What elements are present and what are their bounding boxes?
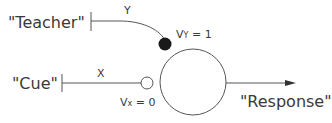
x-label: X: [97, 67, 105, 80]
arrowhead-icon: [285, 80, 296, 86]
vy-label: VY = 1: [176, 28, 212, 41]
teacher-label: "Teacher": [8, 13, 85, 32]
cue-label: "Cue": [12, 74, 58, 93]
response-label: "Response": [240, 92, 332, 111]
teacher-synapse-filled: [159, 38, 172, 51]
y-label: Y: [123, 4, 131, 17]
conditioning-diagram: "Teacher" Y VY = 1 "Cue" X Vx = 0 "Respo…: [0, 0, 332, 123]
cue-synapse-hollow: [141, 77, 153, 89]
vx-label: Vx = 0: [120, 96, 155, 109]
teacher-connection: [91, 21, 165, 40]
neuron-body: [160, 49, 226, 115]
